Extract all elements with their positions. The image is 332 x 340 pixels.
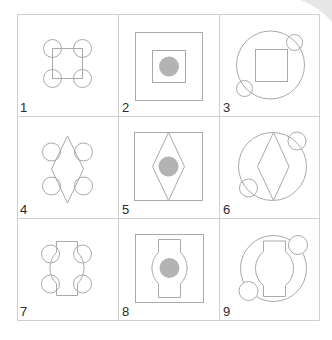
square-shape (256, 50, 288, 82)
small-circle (237, 81, 253, 97)
cell-6: 6 (223, 132, 307, 217)
small-circle (75, 177, 93, 195)
cell-2: 2 (122, 33, 203, 116)
cell-5: 5 (122, 133, 203, 218)
small-circle (43, 143, 61, 161)
small-circle (42, 245, 60, 263)
small-circle (74, 275, 92, 293)
small-circle (288, 132, 306, 150)
small-circle (289, 236, 308, 255)
small-circle (43, 177, 61, 195)
cell-7: 7 (20, 242, 92, 320)
cell-label: 2 (122, 100, 129, 115)
small-circle (75, 143, 93, 161)
filled-dot (160, 258, 180, 278)
small-circle (287, 35, 303, 51)
cell-label: 7 (20, 304, 27, 319)
cell-9: 9 (223, 236, 308, 320)
cell-4: 4 (20, 136, 93, 217)
notched-circle-shape (255, 241, 293, 297)
cell-label: 8 (122, 304, 129, 319)
page-corner-shadow (300, 0, 332, 22)
cell-3: 3 (223, 31, 305, 115)
cell-label: 5 (122, 202, 129, 217)
cell-label: 9 (223, 304, 230, 319)
cell-1: 1 (20, 40, 92, 116)
cell-label: 3 (223, 100, 230, 115)
notched-circle-shape (50, 242, 84, 296)
filled-dot (159, 157, 179, 177)
square-shape (53, 49, 83, 79)
circle-frame (237, 31, 305, 99)
filled-dot (159, 57, 179, 77)
cell-8: 8 (122, 235, 204, 320)
diamond-shape (258, 133, 290, 201)
circle-frame (239, 133, 307, 201)
cell-label: 1 (20, 100, 27, 115)
shape-grid-figure: 1 2 3 4 5 6 (0, 0, 332, 340)
small-circle (239, 282, 258, 301)
diamond-shape (52, 136, 84, 203)
cell-label: 6 (223, 202, 230, 217)
cell-label: 4 (20, 202, 27, 217)
small-circle (240, 179, 258, 197)
